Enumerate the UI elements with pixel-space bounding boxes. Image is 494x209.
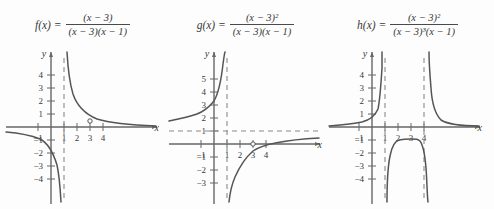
y-tick-label: 4 [360, 70, 365, 80]
tick-labels-f: −1 1 2 3 4 4 3 2 1 −1 −2 −3 −4 x y [33, 48, 159, 184]
plot-f-svg: −1 1 2 3 4 4 3 2 1 −1 −2 −3 −4 x y [0, 44, 165, 209]
formula-g-lhs: g(x) = [197, 19, 226, 31]
curve-branch-right [67, 52, 156, 126]
x-tick-label: 4 [101, 133, 106, 143]
curve-branch-middle [387, 139, 428, 202]
plot-h-svg: −1 1 2 3 4 4 3 2 1 −1 −2 −3 −4 x y [325, 44, 494, 209]
formula-g-denominator: (x − 3)(x − 1) [230, 24, 294, 37]
y-axis-arrow [49, 52, 53, 57]
axes-g [169, 52, 320, 204]
plot-g: −1 1 2 3 4 5 4 3 2 1 −1 −2 −3 x y [163, 44, 328, 209]
y-tick-label: 3 [39, 83, 44, 93]
plot-f: −1 1 2 3 4 4 3 2 1 −1 −2 −3 −4 x y [0, 44, 165, 209]
y-axis-label: y [362, 48, 368, 59]
y-tick-label: 2 [202, 113, 207, 123]
y-axis-label: y [204, 48, 210, 59]
y-axis-arrow [370, 52, 374, 57]
panel-f: f(x) =(x − 3)(x − 3)(x − 1) [0, 0, 165, 209]
formula-f-numerator: (x − 3) [66, 12, 130, 24]
panel-h: h(x) =(x − 3)²(x − 3)³(x − 1) [325, 0, 490, 209]
formula-h-lhs: h(x) = [357, 19, 386, 31]
y-tick-label: −3 [196, 178, 206, 188]
formula-f: f(x) =(x − 3)(x − 3)(x − 1) [0, 12, 165, 37]
x-axis-label: x [154, 122, 160, 133]
formula-g: g(x) =(x − 3)²(x − 3)(x − 1) [163, 12, 328, 37]
axes-f [6, 52, 157, 204]
x-tick-label: 2 [238, 150, 243, 160]
hole-marker [251, 142, 255, 146]
y-tick-label: 1 [360, 109, 365, 119]
x-axis-label: x [317, 139, 323, 150]
formula-g-numerator: (x − 3)² [230, 12, 294, 24]
y-tick-label: −1 [354, 135, 364, 145]
curve-branch-left [329, 52, 382, 126]
y-tick-label: 2 [360, 96, 365, 106]
y-axis-label: y [41, 48, 47, 59]
axes-h [329, 52, 480, 204]
rational-function-figure: f(x) =(x − 3)(x − 3)(x − 1) [0, 0, 494, 209]
y-tick-label: −3 [33, 161, 43, 171]
x-tick-label: 2 [75, 133, 80, 143]
y-tick-label: 5 [202, 74, 207, 84]
formula-g-fraction: (x − 3)²(x − 3)(x − 1) [230, 12, 294, 37]
curve-branch-right [429, 52, 479, 126]
y-tick-label: 4 [202, 87, 207, 97]
panel-g: g(x) =(x − 3)²(x − 3)(x − 1) [163, 0, 328, 209]
curve-branch-right [229, 138, 319, 202]
y-tick-label: −2 [196, 165, 206, 175]
formula-f-fraction: (x − 3)(x − 3)(x − 1) [66, 12, 130, 37]
formula-f-lhs: f(x) = [35, 19, 62, 31]
x-axis-label: x [477, 122, 483, 133]
formula-h-numerator: (x − 3)² [390, 12, 458, 24]
formula-h: h(x) =(x − 3)²(x − 3)³(x − 1) [325, 12, 490, 37]
formula-h-denominator: (x − 3)³(x − 1) [390, 24, 458, 37]
y-tick-label: −2 [354, 148, 364, 158]
y-tick-label: −4 [33, 174, 43, 184]
plot-h: −1 1 2 3 4 4 3 2 1 −1 −2 −3 −4 x y [325, 44, 490, 209]
y-axis-arrow [212, 52, 216, 57]
y-tick-label: −2 [33, 148, 43, 158]
y-tick-label: −1 [196, 152, 206, 162]
y-tick-label: −4 [354, 174, 364, 184]
x-tick-label: 3 [88, 133, 93, 143]
y-tick-label: 1 [39, 109, 44, 119]
hole-marker [88, 119, 92, 123]
x-tick-label: 3 [409, 133, 414, 143]
y-tick-label: 2 [39, 96, 44, 106]
y-tick-label: −3 [354, 161, 364, 171]
y-tick-label: 3 [360, 83, 365, 93]
plot-g-svg: −1 1 2 3 4 5 4 3 2 1 −1 −2 −3 x y [163, 44, 328, 209]
x-tick-label: 4 [264, 150, 269, 160]
formula-f-denominator: (x − 3)(x − 1) [66, 24, 130, 37]
y-tick-label: 4 [39, 70, 44, 80]
curve-branch-left [169, 52, 225, 121]
formula-h-fraction: (x − 3)²(x − 3)³(x − 1) [390, 12, 458, 37]
